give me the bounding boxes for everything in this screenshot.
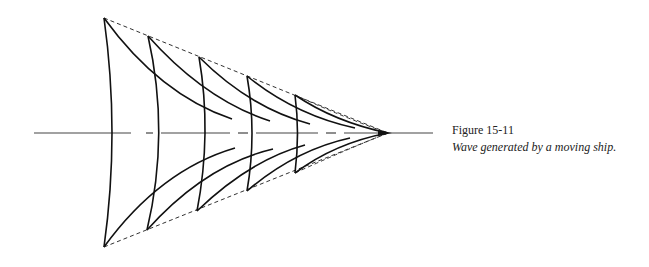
figure-caption: Figure 15-11 Wave generated by a moving … <box>452 123 616 155</box>
ship-icon <box>378 130 392 136</box>
figure-caption-text: Wave generated by a moving ship. <box>452 140 616 155</box>
figure-number: Figure 15-11 <box>452 123 616 138</box>
